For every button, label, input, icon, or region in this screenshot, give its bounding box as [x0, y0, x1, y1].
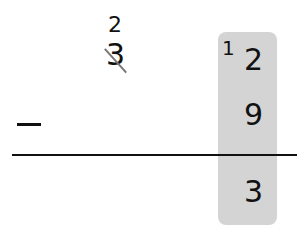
borrowed-one-digit: 1 [222, 38, 235, 58]
ones-difference-digit: 3 [244, 177, 263, 207]
ones-subtrahend-digit: 9 [244, 100, 263, 130]
answer-rule-line [12, 154, 297, 156]
minus-sign [17, 123, 41, 126]
tens-regrouped-digit: 2 [108, 14, 122, 36]
ones-minuend-digit: 2 [244, 45, 263, 75]
